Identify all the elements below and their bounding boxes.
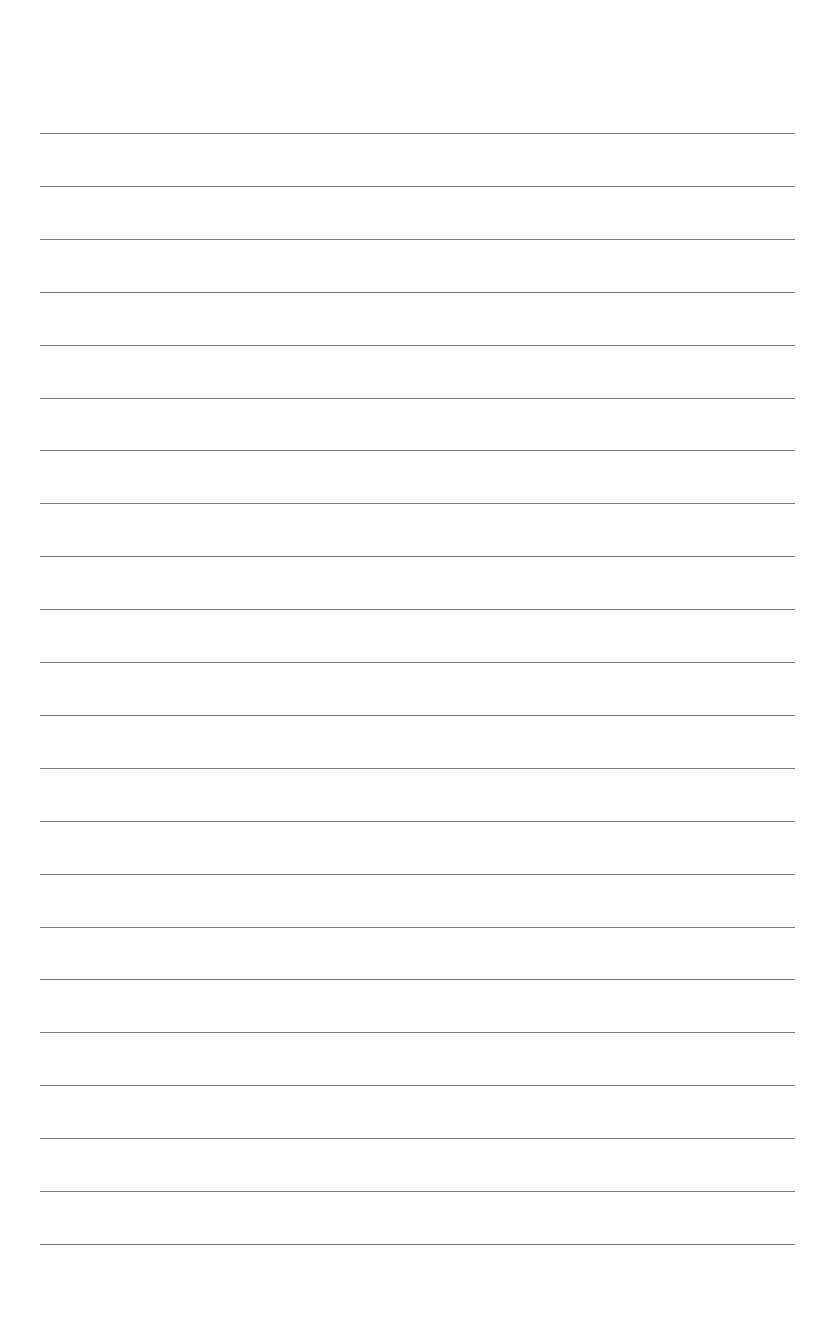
ruled-line bbox=[40, 398, 795, 399]
ruled-line bbox=[40, 927, 795, 928]
ruled-line bbox=[40, 450, 795, 451]
ruled-line bbox=[40, 1032, 795, 1033]
ruled-line bbox=[40, 503, 795, 504]
ruled-line bbox=[40, 821, 795, 822]
ruled-line bbox=[40, 1138, 795, 1139]
ruled-line bbox=[40, 662, 795, 663]
ruled-line bbox=[40, 1085, 795, 1086]
ruled-line bbox=[40, 186, 795, 187]
ruled-line bbox=[40, 1244, 795, 1245]
ruled-line bbox=[40, 715, 795, 716]
lined-paper-page bbox=[0, 0, 828, 1328]
ruled-line bbox=[40, 609, 795, 610]
ruled-line bbox=[40, 345, 795, 346]
ruled-line bbox=[40, 292, 795, 293]
ruled-line bbox=[40, 239, 795, 240]
ruled-line bbox=[40, 768, 795, 769]
ruled-line bbox=[40, 979, 795, 980]
ruled-line bbox=[40, 133, 795, 134]
ruled-line bbox=[40, 556, 795, 557]
ruled-line bbox=[40, 1191, 795, 1192]
ruled-line bbox=[40, 874, 795, 875]
